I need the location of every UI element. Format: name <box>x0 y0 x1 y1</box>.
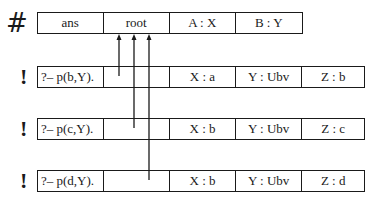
link-arrows <box>0 0 381 202</box>
arrow-icon <box>117 34 122 76</box>
arrow-icon <box>147 34 152 180</box>
arrow-icon <box>132 34 137 128</box>
